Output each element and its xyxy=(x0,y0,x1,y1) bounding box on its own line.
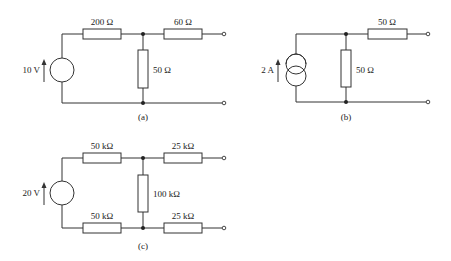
resistor-series-top xyxy=(83,153,121,163)
output-terminal xyxy=(426,32,430,36)
resistor-series-bottom xyxy=(83,223,121,233)
wire xyxy=(296,86,426,102)
source-direction-arrow-icon xyxy=(42,182,47,205)
circuit-caption: (c) xyxy=(138,241,148,251)
resistor-label: 60 Ω xyxy=(174,17,192,27)
wire xyxy=(296,34,368,54)
resistor-label: 50 Ω xyxy=(356,65,374,75)
resistor-label: 200 Ω xyxy=(91,17,114,27)
voltage-source xyxy=(50,181,74,205)
resistor-output-top xyxy=(368,29,407,39)
resistor-shunt xyxy=(138,50,148,88)
resistor-series-top xyxy=(83,29,121,39)
output-terminal xyxy=(222,226,226,230)
source-direction-arrow-icon xyxy=(276,59,281,82)
current-source xyxy=(286,54,306,86)
junction-node xyxy=(141,226,145,230)
output-terminal xyxy=(222,156,226,160)
circuit-caption: (b) xyxy=(341,112,352,122)
resistor-label: 50 Ω xyxy=(153,65,171,75)
circuit-figure: 10 V 200 Ω 60 Ω 50 Ω (a) 2 A xyxy=(0,0,451,261)
circuit-caption: (a) xyxy=(138,112,148,122)
source-value-label: 10 V xyxy=(22,65,40,75)
circuit-b: 2 A 50 Ω 50 Ω (b) xyxy=(261,17,430,122)
resistor-output-bottom xyxy=(164,223,202,233)
junction-node xyxy=(141,101,145,105)
resistor-output-top xyxy=(164,153,202,163)
resistor-output-top xyxy=(164,29,202,39)
output-terminal xyxy=(222,32,226,36)
source-direction-arrow-icon xyxy=(42,59,47,82)
resistor-label: 50 kΩ xyxy=(91,211,114,221)
source-value-label: 20 V xyxy=(22,188,40,198)
wire xyxy=(62,34,83,58)
junction-node xyxy=(344,100,348,104)
resistor-label: 50 kΩ xyxy=(91,141,114,151)
junction-node xyxy=(141,32,145,36)
output-terminal xyxy=(222,101,226,105)
resistor-shunt xyxy=(138,175,148,212)
circuit-a: 10 V 200 Ω 60 Ω 50 Ω (a) xyxy=(22,17,225,122)
junction-node xyxy=(141,156,145,160)
junction-node xyxy=(344,32,348,36)
resistor-label: 50 Ω xyxy=(378,17,396,27)
source-value-label: 2 A xyxy=(261,65,274,75)
output-terminal xyxy=(426,100,430,104)
resistor-label: 25 kΩ xyxy=(172,211,195,221)
wire xyxy=(62,158,83,181)
resistor-label: 100 kΩ xyxy=(153,189,180,199)
wire xyxy=(62,205,83,228)
resistor-label: 25 kΩ xyxy=(172,141,195,151)
circuit-c: 20 V 50 kΩ 50 kΩ 100 kΩ 25 kΩ 25 kΩ (c) xyxy=(22,141,225,251)
resistor-shunt xyxy=(341,50,351,87)
voltage-source xyxy=(50,58,74,82)
